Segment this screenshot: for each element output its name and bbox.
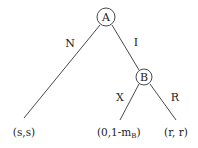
edge-label-i: I (134, 36, 138, 49)
edge-n (24, 25, 100, 118)
payoff-ss: (s,s) (13, 126, 35, 138)
edge-label-x: X (116, 91, 124, 104)
edge-label-n: N (65, 37, 75, 50)
edge-label-r: R (171, 91, 180, 104)
payoff-rr: (r, r) (164, 126, 188, 138)
game-tree-svg: A B N I X R (s,s) (0,1-mB) (r, r) (0, 0, 198, 148)
payoff-close: ) (136, 126, 140, 138)
payoff-main: (0,1-m (97, 126, 131, 138)
payoff-zero-one-minus-mb: (0,1-mB) (97, 126, 141, 140)
node-a-label: A (101, 11, 111, 24)
game-tree-diagram: A B N I X R (s,s) (0,1-mB) (r, r) (0, 0, 198, 148)
node-b-label: B (140, 71, 148, 84)
